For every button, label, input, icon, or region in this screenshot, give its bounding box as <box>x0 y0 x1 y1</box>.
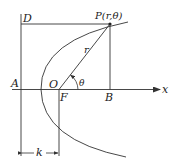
label-p: P(r,θ) <box>94 10 123 21</box>
label-o: O <box>49 78 58 91</box>
theta-arc <box>71 75 79 90</box>
label-k: k <box>36 146 43 159</box>
label-a: A <box>10 77 19 90</box>
point-p-dot <box>108 22 111 25</box>
parabola-diagram: D P(r,θ) r θ A O F B x k <box>0 0 174 167</box>
radius-line <box>59 24 110 90</box>
label-x: x <box>162 83 169 96</box>
label-d: D <box>22 12 32 25</box>
label-theta: θ <box>79 78 85 88</box>
label-b: B <box>104 91 113 104</box>
label-f: F <box>59 91 68 104</box>
label-r: r <box>84 44 90 55</box>
